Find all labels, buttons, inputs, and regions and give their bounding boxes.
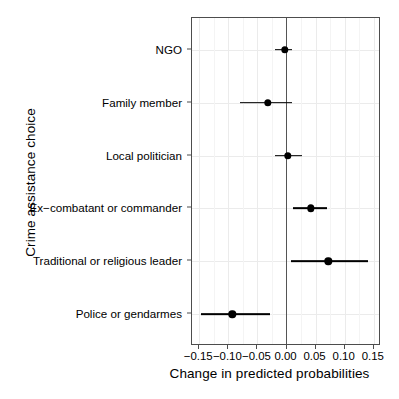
gridline-minor-vertical [214,18,215,344]
x-axis-tick-label: −0.15 [184,350,213,362]
x-axis-tick-mark [286,345,287,349]
x-axis-tick-label: 0.05 [303,350,325,362]
y-axis-tick-label: Family member [102,95,182,108]
x-axis-tick-mark [373,345,374,349]
x-axis-tick-mark [344,345,345,349]
estimate-point [307,205,314,212]
plot-panel [191,17,380,345]
gridline-major-vertical [199,18,200,344]
x-axis-tick-mark [256,345,257,349]
x-axis-tick-label: 0.10 [333,350,355,362]
gridline-major-vertical [316,18,317,344]
estimate-point [284,152,291,159]
gridline-minor-vertical [301,18,302,344]
estimate-point [264,99,271,106]
x-axis-title: Change in predicted probabilities [140,366,399,381]
gridline-major-vertical [374,18,375,344]
y-axis-tick-label: Police or gendarmes [76,307,182,320]
x-axis-tick-label: −0.05 [242,350,271,362]
y-axis-tick-labels: NGOFamily memberLocal politicianEx−comba… [0,17,187,345]
gridline-major-vertical [228,18,229,344]
zero-reference-line [286,18,287,344]
coefficient-plot: Crime assistance choice NGOFamily member… [0,0,399,399]
x-axis-tick-label: 0.15 [362,350,384,362]
gridline-minor-vertical [243,18,244,344]
y-axis-tick-label: Traditional or religious leader [33,254,182,267]
gridline-major-vertical [345,18,346,344]
estimate-point [281,46,288,53]
x-axis-tick-label: 0.00 [274,350,296,362]
gridline-major-vertical [257,18,258,344]
x-axis-tick-mark [315,345,316,349]
x-axis-tick-labels: −0.15−0.10−0.050.000.050.100.15 [191,350,380,364]
x-axis-tick-label: −0.10 [213,350,242,362]
gridline-minor-vertical [330,18,331,344]
gridline-minor-vertical [359,18,360,344]
y-axis-tick-label: Ex−combatant or commander [30,201,182,214]
x-axis-tick-mark [227,345,228,349]
y-axis-tick-label: NGO [156,42,182,55]
estimate-point [229,311,236,318]
gridline-minor-vertical [272,18,273,344]
y-axis-tick-label: Local politician [106,148,182,161]
x-axis-tick-mark [198,345,199,349]
